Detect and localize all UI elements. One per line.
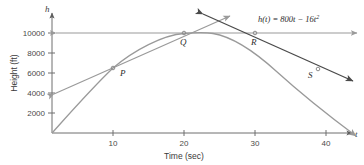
secant-line-dark-through-QR (203, 14, 353, 81)
x-axis-tick-labels: 10 20 30 40 (109, 139, 331, 148)
y-axis-symbol-h: h (45, 4, 50, 14)
y-tick-label-8000: 8000 (27, 49, 45, 58)
x-tick-label-10: 10 (109, 139, 118, 148)
y-axis-title: Height (ft) (9, 54, 19, 91)
x-tick-label-40: 40 (322, 139, 331, 148)
x-axis-symbol-t: t (355, 129, 358, 139)
point-label-S: S (308, 70, 313, 80)
x-tick-label-20: 20 (180, 139, 189, 148)
graph-svg: 2000 4000 6000 8000 10000 10 20 30 40 h … (0, 0, 364, 165)
point-label-Q: Q (180, 37, 187, 47)
x-axis-title: Time (sec) (164, 151, 204, 161)
parabola-curve (52, 33, 356, 136)
y-tick-label-2000: 2000 (27, 109, 45, 118)
axes (52, 13, 352, 133)
function-formula-exponent: 2 (316, 14, 319, 20)
plot-points (111, 31, 320, 71)
y-tick-label-6000: 6000 (27, 69, 45, 78)
plot-point-labels: P Q R S (119, 37, 313, 80)
x-tick-label-30: 30 (251, 139, 260, 148)
graph-figure: 2000 4000 6000 8000 10000 10 20 30 40 h … (0, 0, 364, 165)
function-formula: h(t) = 800t − 16t2 (258, 14, 319, 24)
point-label-R: R (250, 37, 257, 47)
y-tick-label-4000: 4000 (27, 89, 45, 98)
secant-line-gray-through-P (54, 16, 230, 94)
function-formula-base: h(t) = 800t − 16t (258, 14, 317, 24)
y-tick-label-10000: 10000 (23, 29, 46, 38)
point-label-P: P (119, 68, 126, 78)
point-marker-S (316, 67, 320, 71)
y-axis-tick-labels: 2000 4000 6000 8000 10000 (23, 29, 46, 118)
